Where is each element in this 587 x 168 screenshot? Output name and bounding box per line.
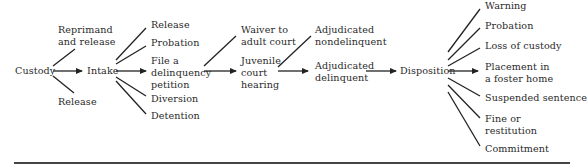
- node-release-from-custody: Release: [58, 96, 97, 108]
- node-file-delinquency-petition: File a delinquency petition: [151, 55, 211, 91]
- node-probation-disposition: Probation: [485, 20, 533, 32]
- node-waiver-to-adult-court: Waiver to adult court: [241, 24, 296, 48]
- node-adjudicated-delinquent: Adjudicated delinquent: [315, 60, 374, 84]
- node-commitment: Commitment: [485, 143, 549, 155]
- node-fine-or-restitution: Fine or restitution: [485, 113, 537, 137]
- node-release-from-intake: Release: [151, 19, 190, 31]
- bottom-rule-divider: [14, 162, 570, 164]
- node-warning: Warning: [485, 0, 527, 12]
- node-loss-of-custody: Loss of custody: [485, 40, 562, 52]
- node-detention: Detention: [151, 110, 200, 122]
- node-diversion: Diversion: [151, 93, 198, 105]
- node-intake: Intake: [87, 65, 119, 77]
- node-reprimand-and-release: Reprimand and release: [58, 24, 116, 48]
- node-custody: Custody: [15, 65, 55, 77]
- node-probation-intake: Probation: [151, 37, 199, 49]
- node-suspended-sentence: Suspended sentence: [485, 92, 587, 104]
- node-placement-foster-home: Placement in a foster home: [485, 61, 553, 85]
- node-adjudicated-nondelinquent: Adjudicated nondelinquent: [315, 24, 387, 48]
- node-juvenile-court-hearing: Juvenile court hearing: [241, 55, 281, 91]
- node-disposition: Disposition: [400, 65, 456, 77]
